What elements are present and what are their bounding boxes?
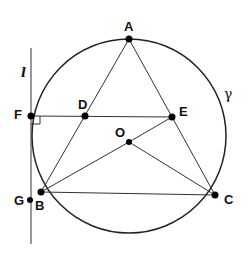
label-a: A [124,20,133,33]
label-b: B [35,199,44,212]
point-e [169,114,176,121]
label-f: F [14,108,22,121]
segment-bc [41,192,215,195]
point-a [126,36,133,43]
point-c [212,192,219,199]
label-d: D [78,98,87,111]
segment-oe [129,117,172,142]
label-l: l [21,66,26,79]
circle-gamma [32,39,226,233]
label-c: C [224,193,233,206]
label-g: G [14,194,24,207]
geometry-diagram: A D E F O G B C γ l [0,0,247,258]
label-e: E [179,105,188,118]
point-g [27,197,33,203]
point-b [38,189,45,196]
point-d [82,113,89,120]
point-o [126,139,132,145]
label-o: O [115,126,125,139]
label-gamma: γ [224,87,232,101]
point-f [28,113,35,120]
segment-oc [129,142,215,195]
segment-ob [41,142,129,192]
segment-fe [31,116,172,117]
